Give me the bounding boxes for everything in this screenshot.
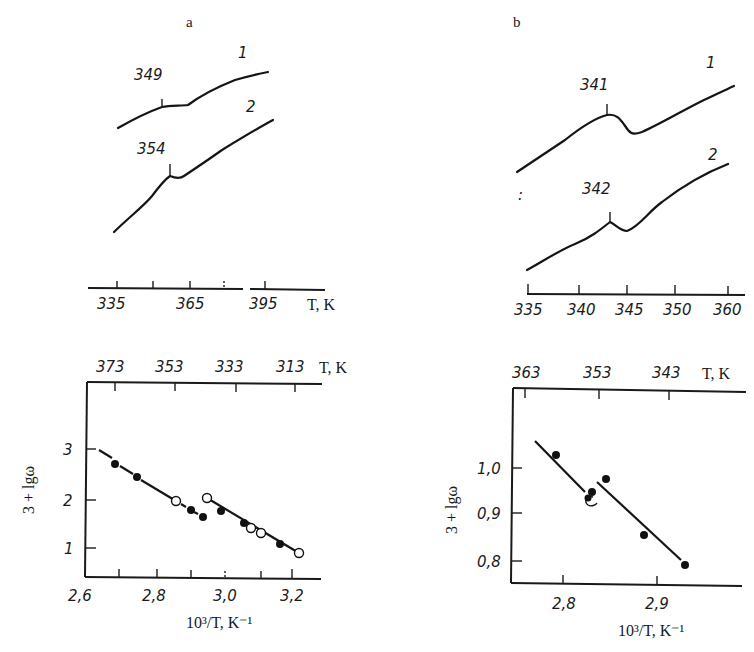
y-axis-label: 3 + lgω <box>443 486 461 534</box>
top-axis <box>87 382 322 384</box>
data-point-filled <box>217 507 225 515</box>
x-tick-label: 345 <box>615 301 644 319</box>
curve-label-1: 1 <box>238 44 248 62</box>
data-point-open <box>247 524 256 533</box>
top-tick-label: 353 <box>583 364 612 382</box>
data-point-filled <box>276 540 284 548</box>
x-tick-label: 395 <box>249 295 278 313</box>
x-axis-label: 10³/T, K⁻¹ <box>618 622 684 639</box>
thermogram-a-axis-left <box>88 288 243 289</box>
x-tick-label: 335 <box>514 301 543 319</box>
top-tick-label: 333 <box>215 358 244 376</box>
curve-label-2: 2 <box>246 98 256 116</box>
fit-line-dashed <box>99 450 112 458</box>
arrhenius-a: 373 353 333 313 T, K 3 2 1 3 + lgω 2,6 2… <box>20 358 348 631</box>
panel-label-b: b <box>513 14 521 30</box>
x-tick-label: 340 <box>567 301 596 319</box>
thermogram-b: 341 342 1 2 : 335 340 345 350 360 <box>514 54 745 319</box>
fit-line-dashed <box>120 466 133 474</box>
thermogram-a-curve-2 <box>114 120 273 232</box>
x-tick-label: 3,2 <box>280 587 304 605</box>
data-point-filled <box>552 451 560 459</box>
x-tick-label: 335 <box>97 295 126 313</box>
x-axis <box>85 577 321 579</box>
top-tick-label: 353 <box>155 358 184 376</box>
thermogram-a: 349 354 1 2 335 365 395 T, K <box>88 44 336 313</box>
x-axis-unit: T, K <box>307 296 336 313</box>
data-point-open <box>172 497 181 506</box>
curve-label-1: 1 <box>706 54 716 72</box>
fit-line-dashed <box>194 512 198 514</box>
arrhenius-b: 363 353 343 T, K 1,0 0,9 0,8 3 + lgω 2,8… <box>443 364 746 639</box>
data-point-filled <box>585 495 592 502</box>
fit-line <box>141 480 176 501</box>
data-point-filled <box>111 460 119 468</box>
x-tick-label: 2,8 <box>552 595 576 613</box>
y-tick-label: 2 <box>63 492 73 510</box>
data-point-filled <box>199 513 207 521</box>
panel-label-a: a <box>186 14 193 30</box>
x-tick-label: 2,6 <box>68 587 92 605</box>
stray-mark: : <box>518 186 523 204</box>
thermogram-b-axis <box>527 294 745 295</box>
thermogram-a-axis-right <box>250 289 325 290</box>
fit-line-dashed <box>181 504 186 507</box>
x-tick-label: 3,0 <box>213 587 237 605</box>
thermogram-b-curve-2 <box>527 164 728 270</box>
top-tick-label: 363 <box>512 364 541 382</box>
data-point-open <box>295 549 304 558</box>
data-point-filled <box>640 531 648 539</box>
y-axis <box>511 388 513 583</box>
y-tick-label: 1,0 <box>477 460 501 478</box>
figure: a b 349 354 1 2 335 365 395 T, K 341 342… <box>0 0 754 652</box>
x-axis-label: 10³/T, K⁻¹ <box>186 614 252 631</box>
top-tick-label: 343 <box>652 364 681 382</box>
curve-label-2: 2 <box>708 146 718 164</box>
data-point-filled <box>133 473 141 481</box>
top-axis-unit: T, K <box>319 359 348 376</box>
x-tick-label: 350 <box>663 301 692 319</box>
y-tick-label: 3 <box>63 441 73 459</box>
thermogram-b-curve-1 <box>517 86 734 172</box>
peak-label-354: 354 <box>137 140 166 158</box>
data-point-open <box>203 494 212 503</box>
top-axis <box>513 388 746 392</box>
peak-label-342: 342 <box>582 180 611 198</box>
x-tick-label: 2,9 <box>645 595 669 613</box>
top-tick-label: 373 <box>96 358 125 376</box>
top-axis-unit: T, K <box>702 365 731 382</box>
x-tick-label: 2,8 <box>142 587 166 605</box>
data-point-filled <box>602 475 610 483</box>
peak-label-349: 349 <box>134 66 163 84</box>
y-tick-label: 0,8 <box>477 553 501 571</box>
peak-label-341: 341 <box>580 76 609 94</box>
x-tick-label: 360 <box>713 301 742 319</box>
x-tick-label: 365 <box>176 295 205 313</box>
fit-line <box>535 441 585 492</box>
top-tick-label: 313 <box>276 358 305 376</box>
y-tick-label: 1 <box>64 540 74 558</box>
data-point-filled <box>187 506 195 514</box>
y-tick-label: 0,9 <box>477 505 501 523</box>
x-axis <box>511 583 742 586</box>
fit-line <box>597 482 681 560</box>
y-axis-label: 3 + lgω <box>20 466 38 514</box>
data-point-open <box>257 529 266 538</box>
data-point-filled <box>681 561 689 569</box>
